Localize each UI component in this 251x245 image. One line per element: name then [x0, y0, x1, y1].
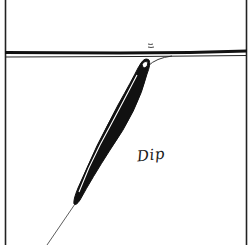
float-body: [74, 59, 150, 205]
fishing-line-lower: [47, 204, 75, 245]
fishing-line-upper: [148, 56, 172, 66]
dip-diagram: [0, 0, 251, 245]
water-surface-thin-line: [5, 56, 247, 58]
dip-label: Dip: [136, 145, 166, 166]
illustration-panel: Dip: [0, 0, 251, 245]
ripple-icon: [148, 44, 153, 45]
ripple-icon: [148, 47, 154, 48]
water-surface-thick-line: [5, 51, 247, 53]
